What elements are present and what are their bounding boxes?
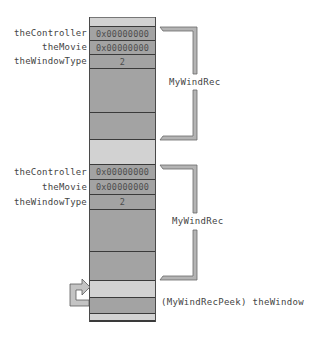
memory-layout-diagram: 0x00000000 0x00000000 2 0x00000000 0x000… [0,0,312,337]
pointer-arrow-icon [70,279,90,306]
pointer-label: (MyWindRecPeek) theWindow [161,297,304,307]
bracket-label-record-1: MyWindRec [169,77,220,87]
bracket-graphics [0,0,312,337]
bracket-label-record-2: MyWindRec [172,216,223,226]
